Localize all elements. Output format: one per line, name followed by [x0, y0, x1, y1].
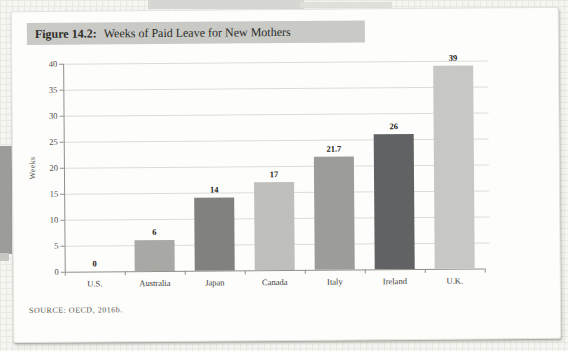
bar-value-us: 0 — [75, 258, 115, 268]
bar-value-italy: 21.7 — [314, 144, 354, 154]
x-tick-3 — [245, 270, 246, 274]
figure-card: Figure 14.2:Weeks of Paid Leave for New … — [11, 7, 562, 343]
y-tick-label-5: 5 — [37, 241, 59, 251]
y-tick-label-10: 10 — [36, 215, 58, 225]
gridline-35 — [63, 86, 488, 90]
category-label-australia: Australia — [125, 278, 185, 288]
y-tick-label-40: 40 — [35, 59, 57, 69]
x-tick-1 — [125, 271, 126, 275]
y-tick-label-35: 35 — [35, 85, 57, 95]
category-label-canada: Canada — [245, 277, 305, 287]
y-tick-label-15: 15 — [36, 189, 58, 199]
y-tick-label-20: 20 — [36, 163, 58, 173]
y-tick-label-0: 0 — [37, 267, 59, 277]
page-left-edge-tail — [0, 253, 9, 261]
category-label-japan: Japan — [185, 277, 245, 287]
bar-ireland — [374, 134, 415, 269]
bar-australia — [135, 240, 175, 272]
bar-canada — [254, 182, 295, 271]
x-tick-7 — [485, 268, 486, 272]
x-tick-6 — [425, 269, 426, 273]
category-label-uk: U.K. — [425, 275, 485, 285]
page-top-shade — [148, 0, 304, 9]
page-left-edge — [0, 146, 12, 254]
category-label-italy: Italy — [305, 276, 365, 286]
x-tick-2 — [185, 271, 186, 275]
category-label-us: U.S. — [65, 278, 125, 288]
x-tick-4 — [305, 270, 306, 274]
page-top-shade-light — [300, 2, 392, 8]
source-note: SOURCE: OECD, 2016b. — [29, 305, 123, 315]
category-label-ireland: Ireland — [365, 276, 425, 286]
gridline-30 — [64, 112, 489, 116]
y-tick-label-25: 25 — [36, 137, 58, 147]
bar-japan — [194, 198, 235, 271]
bar-value-ireland: 26 — [374, 121, 414, 131]
bar-value-uk: 39 — [433, 53, 473, 63]
bar-italy — [314, 157, 355, 270]
x-tick-5 — [365, 269, 366, 273]
bar-value-japan: 14 — [194, 185, 234, 195]
bar-value-canada: 17 — [254, 169, 294, 179]
bar-uk — [433, 66, 475, 269]
gridline-40 — [63, 60, 488, 64]
bar-value-australia: 6 — [134, 227, 174, 237]
bar-chart: 05101520253035400U.S.6Australia14Japan17… — [12, 8, 561, 342]
gridline-25 — [64, 138, 489, 142]
x-tick-0 — [65, 272, 66, 276]
y-tick-label-30: 30 — [35, 111, 57, 121]
